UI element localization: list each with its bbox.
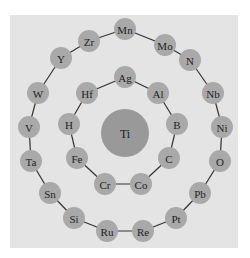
node-label: Si: [69, 213, 78, 225]
node-zr: Zr: [78, 30, 100, 52]
node-label: W: [33, 88, 44, 100]
node-label: Ru: [101, 226, 114, 238]
node-mo: Mo: [154, 34, 176, 56]
node-label: Nb: [206, 88, 220, 100]
node-h: H: [58, 113, 80, 135]
node-ni: Ni: [211, 116, 233, 138]
node-label: Ti: [120, 127, 131, 141]
node-label: C: [165, 153, 172, 165]
node-hf: Hf: [76, 82, 98, 104]
node-y: Y: [50, 47, 72, 69]
node-label: Ag: [118, 72, 132, 84]
node-ta: Ta: [20, 150, 42, 172]
node-label: Ta: [26, 156, 37, 168]
node-label: Fe: [72, 153, 83, 165]
node-label: B: [173, 119, 180, 131]
node-nb: Nb: [202, 82, 224, 104]
node-label: Zr: [84, 36, 95, 48]
node-o: O: [209, 150, 231, 172]
node-label: Sn: [44, 188, 56, 200]
node-b: B: [166, 113, 188, 135]
node-label: Mo: [157, 40, 173, 52]
node-v: V: [18, 116, 40, 138]
node-ag: Ag: [114, 66, 136, 88]
node-re: Re: [132, 220, 154, 242]
node-label: Y: [57, 53, 65, 65]
node-sn: Sn: [39, 182, 61, 204]
node-label: Re: [137, 226, 149, 238]
node-fe: Fe: [66, 147, 88, 169]
node-label: N: [186, 55, 194, 67]
node-si: Si: [63, 207, 85, 229]
node-co: Co: [130, 173, 152, 195]
node-label: H: [65, 119, 73, 131]
node-cr: Cr: [94, 173, 116, 195]
node-c: C: [158, 147, 180, 169]
node-label: Ni: [217, 122, 228, 134]
node-pt: Pt: [165, 207, 187, 229]
node-ru: Ru: [96, 220, 118, 242]
node-label: Pb: [194, 188, 206, 200]
node-label: Cr: [100, 179, 111, 191]
node-label: Mn: [117, 24, 133, 36]
node-label: V: [25, 122, 33, 134]
node-w: W: [27, 82, 49, 104]
node-pb: Pb: [189, 182, 211, 204]
node-n: N: [179, 49, 201, 71]
node-label: Pt: [171, 213, 180, 225]
node-label: Al: [153, 88, 164, 100]
node-label: O: [216, 156, 224, 168]
node-label: Co: [135, 179, 148, 191]
node-ti: Ti: [101, 109, 149, 157]
element-ring-diagram: MnMoNNbNiOPbPtReRuSiSnTaVWYZrAgAlBCCoCrF…: [0, 0, 250, 258]
node-al: Al: [147, 82, 169, 104]
node-label: Hf: [81, 88, 93, 100]
node-mn: Mn: [114, 18, 136, 40]
